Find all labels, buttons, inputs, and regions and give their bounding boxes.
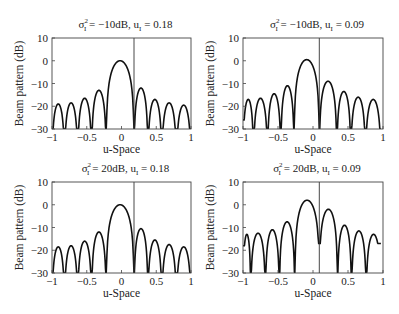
beam-pattern-curve [52, 61, 191, 129]
y-tick-label: 0 [43, 199, 49, 211]
panel-3: 100−10−20−30−1−0.500.51u-SpaceBeam patte… [13, 161, 194, 300]
x-axis-label: u-Space [294, 143, 331, 156]
x-tick-label: −1 [46, 131, 58, 143]
y-tick-label: −20 [31, 244, 49, 256]
y-tick-label: −10 [222, 78, 240, 90]
x-tick-label: −0.5 [268, 275, 288, 287]
panel-4: 100−10−20−30−1−0.500.51u-SpaceBeam patte… [204, 161, 386, 300]
x-tick-label: 1 [380, 275, 386, 287]
y-axis-label: Beam pattern (dB) [204, 185, 217, 271]
x-tick-label: −1 [237, 131, 249, 143]
x-tick-label: −1 [237, 275, 249, 287]
y-tick-label: 10 [228, 32, 240, 44]
beam-pattern-curve [243, 60, 381, 129]
x-tick-label: 1 [380, 131, 386, 143]
y-axis-label: Beam pattern (dB) [13, 185, 26, 271]
x-tick-label: −0.5 [77, 131, 97, 143]
panel-2: 100−10−20−30−1−0.500.51u-SpaceBeam patte… [204, 17, 386, 156]
y-tick-label: 10 [37, 32, 49, 44]
beam-pattern-figure: 100−10−20−30−1−0.500.51u-SpaceBeam patte… [0, 0, 399, 314]
axes-frame [243, 38, 383, 129]
y-axis-label: Beam pattern (dB) [13, 41, 26, 127]
y-tick-label: 0 [234, 199, 240, 211]
x-axis-label: u-Space [103, 287, 140, 300]
y-tick-label: −10 [31, 222, 49, 234]
y-tick-label: −20 [222, 100, 240, 112]
panel-title: σ2I = 20dB, uI = 0.18 [82, 161, 170, 177]
y-tick-label: −20 [222, 244, 240, 256]
panel-1: 100−10−20−30−1−0.500.51u-SpaceBeam patte… [13, 17, 194, 156]
x-tick-label: −0.5 [268, 131, 288, 143]
beam-pattern-curve [243, 200, 381, 273]
x-tick-label: −1 [46, 275, 58, 287]
y-tick-label: 0 [234, 55, 240, 67]
x-axis-label: u-Space [294, 287, 331, 300]
y-tick-label: 10 [37, 176, 49, 188]
y-axis-label: Beam pattern (dB) [204, 41, 217, 127]
y-tick-label: 10 [228, 176, 240, 188]
y-tick-label: −20 [31, 100, 49, 112]
axes-frame [52, 38, 191, 129]
x-tick-label: 0.5 [149, 275, 163, 287]
beam-pattern-curve [52, 205, 191, 273]
x-tick-label: 0 [310, 131, 316, 143]
panels-group: 100−10−20−30−1−0.500.51u-SpaceBeam patte… [13, 17, 386, 300]
x-tick-label: 0.5 [341, 275, 355, 287]
x-tick-label: 1 [188, 275, 194, 287]
x-tick-label: 0 [119, 131, 125, 143]
x-tick-label: 0.5 [341, 131, 355, 143]
panel-title: σ2I = −10dB, uI = 0.18 [79, 17, 173, 33]
panel-title: σ2I = −10dB, uI = 0.09 [270, 17, 364, 33]
x-tick-label: 1 [188, 131, 194, 143]
x-tick-label: 0.5 [149, 131, 163, 143]
y-tick-label: 0 [43, 55, 49, 67]
x-tick-label: 0 [119, 275, 125, 287]
x-axis-label: u-Space [103, 143, 140, 156]
y-tick-label: −10 [31, 78, 49, 90]
panel-title: σ2I = 20dB, uI = 0.09 [273, 161, 361, 177]
x-tick-label: −0.5 [77, 275, 97, 287]
axes-frame [52, 182, 191, 273]
y-tick-label: −10 [222, 222, 240, 234]
x-tick-label: 0 [310, 275, 316, 287]
